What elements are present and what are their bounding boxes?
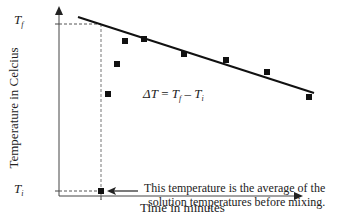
y-axis-arrow-icon	[55, 6, 63, 15]
data-point	[306, 94, 312, 100]
data-points	[98, 36, 312, 194]
data-point	[105, 91, 111, 97]
tf-sub: f	[21, 20, 23, 29]
eq-tf: T	[172, 86, 179, 101]
eq-delta: ΔT	[143, 86, 158, 101]
eq-equals: =	[158, 86, 172, 101]
data-point	[114, 61, 120, 67]
delta-t-equation: ΔT = Tf – Ti	[143, 86, 204, 103]
eq-minus: –	[181, 86, 194, 101]
ti-tick-label: Ti	[14, 181, 23, 198]
data-point	[264, 69, 270, 75]
note-line-2: solution temperatures before mixing.	[144, 195, 325, 209]
ti-sub: i	[21, 189, 23, 198]
eq-ti-sub: i	[201, 94, 203, 103]
note-line-1: This temperature is the average of the	[144, 181, 325, 195]
initial-temperature-point	[98, 188, 104, 194]
trend-line	[78, 17, 314, 93]
data-point	[223, 57, 229, 63]
data-point	[141, 36, 147, 42]
tf-tick-label: Tf	[14, 12, 23, 29]
y-axis-label-text: Temperature in Celcius	[6, 47, 22, 168]
data-point	[181, 51, 187, 57]
initial-temperature-note: This temperature is the average of the s…	[144, 181, 325, 209]
data-point	[122, 38, 128, 44]
